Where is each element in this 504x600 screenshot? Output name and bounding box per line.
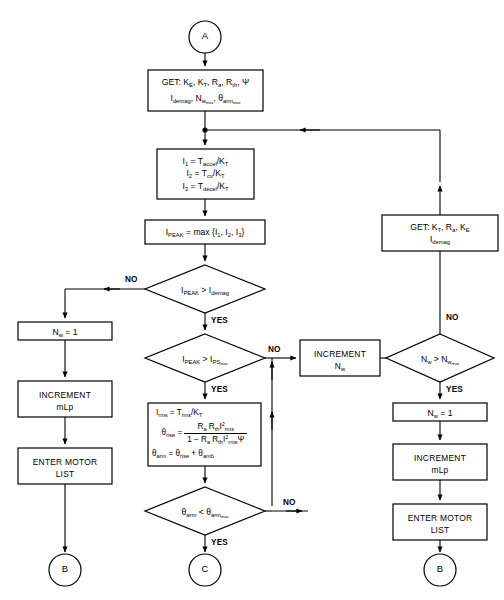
terminal-a-label: A	[185, 30, 225, 41]
edge-label-no-theta: NO	[283, 498, 296, 507]
node-get-params	[148, 70, 263, 111]
flowchart-canvas: A GET: KE, KT, Ra, Rth, Ψ Idemag, Nwmax,…	[0, 0, 504, 600]
node-enter-motor-list-right	[393, 504, 487, 540]
decision-theta	[145, 487, 265, 535]
node-ipeak	[145, 220, 265, 244]
decision-ipeak-demag	[145, 265, 265, 313]
flowchart-svg	[0, 0, 504, 600]
node-currents	[157, 149, 254, 199]
node-nw-one-right	[393, 403, 487, 421]
edge-label-no-nw: NO	[446, 313, 459, 322]
decision-ipeak-psmax	[145, 334, 265, 382]
node-increment-mlp-right	[393, 444, 487, 480]
edge-label-yes-theta: YES	[211, 538, 228, 547]
node-increment-mlp-left	[18, 381, 112, 417]
node-thermal	[148, 403, 261, 466]
node-enter-motor-list-left	[18, 448, 112, 484]
edge-label-yes-psmax: YES	[211, 385, 228, 394]
terminal-b-left-label: B	[45, 563, 85, 574]
terminal-b-right-label: B	[420, 563, 460, 574]
edge-label-yes-nw: YES	[446, 385, 463, 394]
node-get-params-right	[382, 215, 498, 251]
node-nw-one-left	[18, 322, 112, 340]
edge-label-no-psmax: NO	[268, 345, 281, 354]
decision-nw-max	[386, 334, 494, 382]
terminal-c-label: C	[185, 563, 225, 574]
node-increment-nw	[300, 340, 380, 376]
edge-label-no-demag: NO	[125, 275, 138, 284]
edge-label-yes-demag: YES	[211, 316, 228, 325]
